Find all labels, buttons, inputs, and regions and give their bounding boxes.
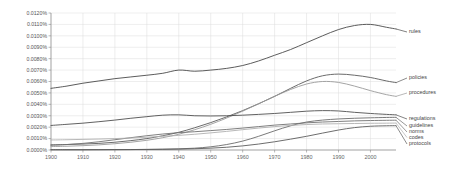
y-tick-label: 0.0070% — [27, 67, 48, 73]
series-line-procedures — [51, 81, 396, 146]
x-tick-label: 1950 — [205, 154, 217, 160]
x-tick-label: 1900 — [45, 154, 57, 160]
series-line-policies — [51, 74, 396, 145]
series-label-protocols[interactable]: protocols — [409, 140, 431, 146]
x-tick-label: 1930 — [141, 154, 153, 160]
y-axis-tick-labels: 0.0000%0.0010%0.0020%0.0030%0.0040%0.005… — [27, 10, 48, 153]
y-tick-label: 0.0000% — [27, 147, 48, 153]
x-tick-label: 1920 — [109, 154, 121, 160]
y-tick-label: 0.0110% — [27, 21, 47, 27]
leader-line-rules — [396, 29, 407, 32]
series-line-codes — [51, 123, 396, 140]
y-tick-label: 0.0080% — [27, 56, 48, 62]
x-tick-label: 2000 — [364, 154, 376, 160]
x-tick-label: 1960 — [237, 154, 249, 160]
series-label-procedures[interactable]: procedures — [409, 89, 436, 95]
x-axis-tick-labels: 1900191019201930194019501960197019801990… — [45, 154, 376, 160]
y-tick-label: 0.0120% — [27, 10, 48, 16]
y-tick-label: 0.0030% — [27, 113, 48, 119]
series-line-rules — [51, 24, 396, 88]
series-label-regulations[interactable]: regulations — [409, 115, 436, 121]
y-tick-label: 0.0100% — [27, 33, 48, 39]
y-tick-label: 0.0010% — [27, 135, 48, 141]
series-label-rules[interactable]: rules — [409, 28, 421, 34]
x-tick-label: 1990 — [333, 154, 345, 160]
x-tick-label: 1970 — [269, 154, 281, 160]
y-tick-label: 0.0020% — [27, 124, 48, 130]
series-leader-lines — [396, 29, 407, 144]
leader-line-policies — [396, 78, 407, 83]
series-labels: rulespoliciesproceduresregulationsguidel… — [409, 28, 436, 146]
y-tick-label: 0.0050% — [27, 90, 48, 96]
series-lines — [51, 24, 396, 149]
leader-line-procedures — [396, 93, 407, 96]
y-tick-label: 0.0090% — [27, 44, 48, 50]
ngram-chart: 0.0000%0.0010%0.0020%0.0030%0.0040%0.005… — [0, 0, 464, 178]
series-label-codes[interactable]: codes — [409, 134, 424, 140]
y-tick-label: 0.0060% — [27, 78, 48, 84]
y-tick-label: 0.0040% — [27, 101, 48, 107]
ngram-plot-svg: 0.0000%0.0010%0.0020%0.0030%0.0040%0.005… — [0, 0, 464, 178]
x-tick-label: 1940 — [173, 154, 185, 160]
x-tick-label: 1910 — [77, 154, 89, 160]
x-tick-label: 1980 — [301, 154, 313, 160]
series-label-policies[interactable]: policies — [409, 74, 427, 80]
